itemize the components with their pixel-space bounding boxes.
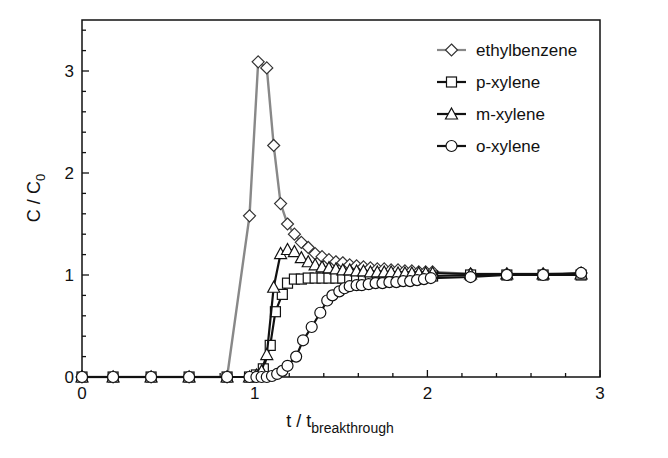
legend-item-m-xylene: m-xylene (437, 105, 545, 124)
circle-marker (306, 322, 317, 333)
triangle-marker (268, 281, 280, 292)
circle-icon (446, 141, 457, 152)
diamond-icon (446, 44, 458, 56)
circle-marker (146, 372, 157, 383)
circle-marker (465, 272, 476, 283)
series-m-xylene (76, 244, 587, 383)
circle-marker (315, 307, 326, 318)
diamond-marker (275, 198, 287, 210)
y-tick-label: 2 (65, 164, 74, 183)
y-axis: 0123 (65, 30, 89, 387)
y-tick-label: 0 (65, 368, 74, 387)
diamond-marker (244, 210, 256, 222)
x-tick-label: 2 (423, 384, 432, 403)
y-axis-label: C / C0 (24, 174, 48, 222)
x-tick-label: 3 (595, 384, 604, 403)
series-p-xylene (77, 270, 586, 382)
series-line (82, 273, 581, 377)
circle-marker (184, 372, 195, 383)
y-tick-label: 3 (65, 62, 74, 81)
circle-marker (501, 270, 512, 281)
legend: ethylbenzenep-xylenem-xyleneo-xylene (437, 41, 577, 156)
legend-label: o-xylene (476, 137, 540, 156)
series-o-xylene (77, 267, 587, 382)
legend-label: ethylbenzene (476, 41, 577, 60)
circle-marker (576, 267, 587, 278)
x-tick-label: 1 (250, 384, 259, 403)
x-axis-label: t / tbreakthrough (286, 411, 394, 436)
circle-marker (108, 372, 119, 383)
legend-item-p-xylene: p-xylene (437, 73, 540, 92)
circle-marker (425, 273, 436, 284)
y-tick-label: 1 (65, 266, 74, 285)
circle-marker (222, 372, 233, 383)
legend-label: p-xylene (476, 73, 540, 92)
x-tick-label: 0 (77, 384, 86, 403)
circle-marker (291, 351, 302, 362)
legend-label: m-xylene (476, 105, 545, 124)
breakthrough-chart: 0123 0123 ethylbenzenep-xylenem-xyleneo-… (0, 0, 668, 458)
circle-marker (538, 270, 549, 281)
legend-item-ethylbenzene: ethylbenzene (437, 41, 577, 60)
y-axis-label-subscript: 0 (33, 174, 48, 181)
x-axis-label-subscript: breakthrough (311, 420, 394, 436)
square-icon (447, 77, 457, 87)
legend-item-o-xylene: o-xylene (437, 137, 540, 156)
diamond-marker (268, 139, 280, 151)
circle-marker (282, 360, 293, 371)
circle-marker (298, 335, 309, 346)
circle-marker (77, 372, 88, 383)
